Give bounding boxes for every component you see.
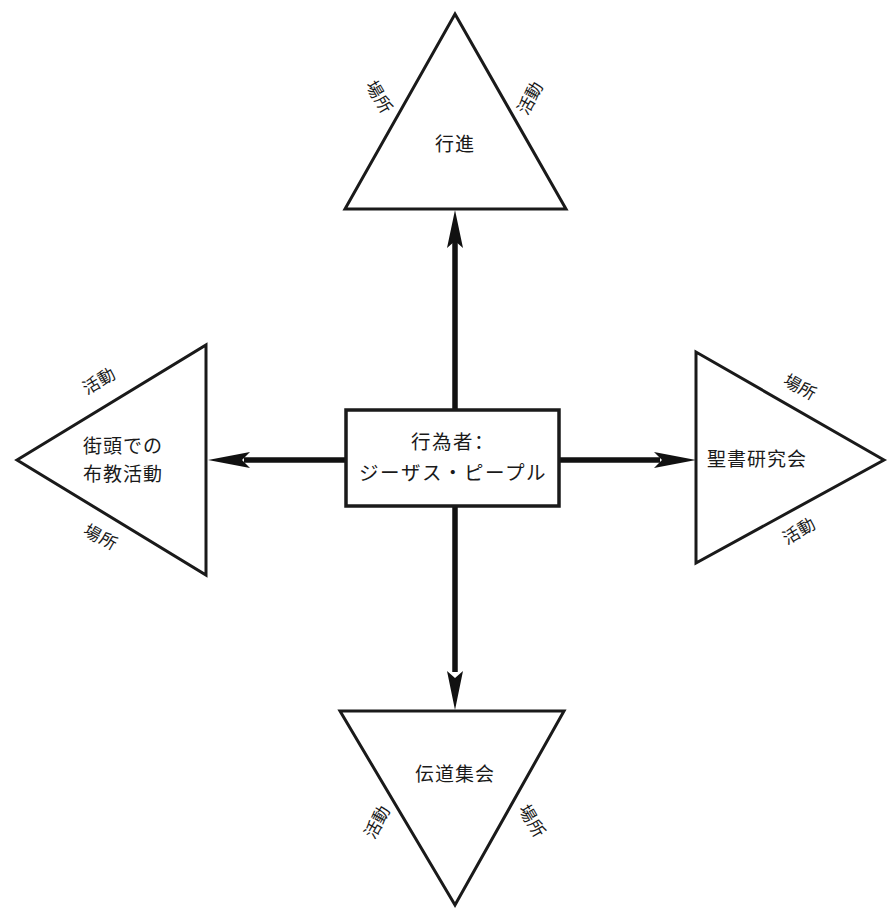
march-label: 行進: [435, 133, 475, 155]
diagram-canvas: 行進 場所 活動 聖書研究会 場所 活動 伝道集会 活動 場所 街頭での 布教活…: [0, 0, 892, 918]
node-street-evangelism[interactable]: 街頭での 布教活動 活動 場所: [17, 345, 206, 575]
arrow-right-head: [654, 452, 696, 468]
street-evangelism-label-line2: 布教活動: [83, 463, 163, 485]
arrow-right-to-bible-study: [559, 452, 696, 468]
street-evangelism-edge-label-lower: 場所: [80, 520, 120, 555]
arrow-down-to-evangelistic-meeting: [447, 506, 463, 710]
street-evangelism-edge-label-upper: 活動: [79, 364, 119, 399]
evangelistic-meeting-edge-label-right: 場所: [514, 801, 549, 841]
arrow-up-to-march: [447, 210, 463, 410]
actor-label-line2: ジーザス・ピープル: [359, 462, 547, 485]
evangelistic-meeting-edge-label-left: 活動: [360, 801, 395, 841]
street-evangelism-label-line1: 街頭での: [83, 435, 163, 457]
node-bible-study[interactable]: 聖書研究会 場所 活動: [696, 352, 884, 563]
arrow-down-head: [447, 671, 463, 710]
node-march[interactable]: 行進 場所 活動: [345, 14, 566, 209]
node-evangelistic-meeting[interactable]: 伝道集会 活動 場所: [340, 711, 564, 905]
bible-study-label: 聖書研究会: [707, 448, 807, 470]
actor-label-line1: 行為者：: [411, 431, 495, 454]
march-edge-label-left: 場所: [361, 77, 396, 117]
arrow-left-head: [208, 452, 250, 468]
bible-study-edge-label-upper: 場所: [780, 370, 820, 405]
node-actor-center[interactable]: 行為者： ジーザス・ピープル: [346, 410, 559, 506]
march-edge-label-right: 活動: [513, 77, 548, 117]
arrow-left-to-street-evangelism: [208, 452, 346, 468]
evangelistic-meeting-label: 伝道集会: [415, 763, 495, 785]
bible-study-edge-label-lower: 活動: [779, 514, 819, 549]
diagram-root: 行進 場所 活動 聖書研究会 場所 活動 伝道集会 活動 場所 街頭での 布教活…: [0, 0, 892, 918]
actor-box[interactable]: [346, 410, 559, 506]
